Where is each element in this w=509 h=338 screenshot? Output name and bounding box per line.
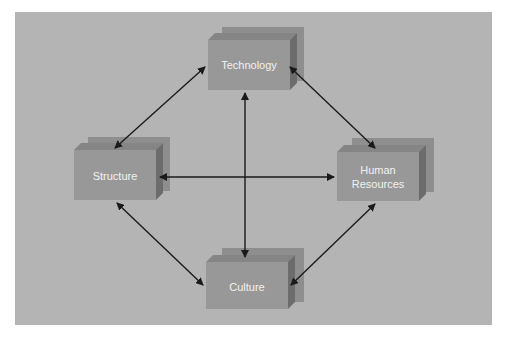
arrow-technology-structure <box>115 67 205 148</box>
human-resources-label-line2: Resources <box>337 177 419 191</box>
arrow-structure-culture <box>117 203 203 285</box>
human-resources-label: Human Resources <box>337 163 419 191</box>
structure-side <box>156 143 163 200</box>
arrow-human-resources-culture <box>291 204 375 285</box>
technology-label: Technology <box>208 58 290 72</box>
structure-label: Structure <box>74 169 156 183</box>
technology-top <box>208 33 297 40</box>
culture-top <box>206 255 295 262</box>
human-resources-side <box>419 145 426 201</box>
culture-label: Culture <box>206 280 288 294</box>
human-resources-top <box>337 145 426 152</box>
human-resources-label-line1: Human <box>337 163 419 177</box>
culture-node <box>206 248 304 309</box>
arrow-technology-human-resources <box>290 67 375 148</box>
technology-side <box>290 33 297 90</box>
